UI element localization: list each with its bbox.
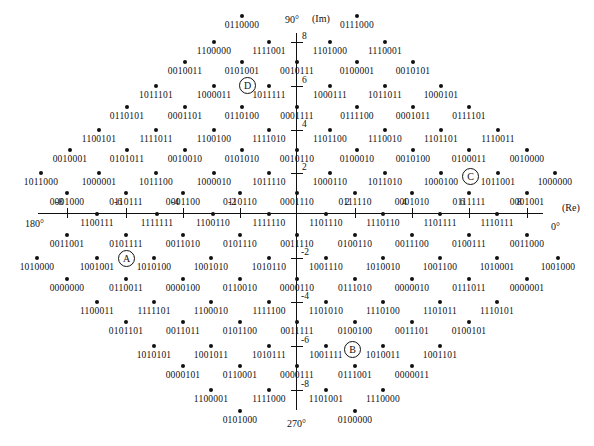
point-dot-icon bbox=[381, 344, 385, 348]
y-tick bbox=[291, 302, 303, 303]
point-dot-icon bbox=[240, 105, 244, 109]
point-dot-icon bbox=[411, 148, 415, 152]
point-code-label: 0010001 bbox=[53, 154, 88, 164]
point-code-label: 1101111 bbox=[423, 218, 456, 228]
point-code-label: 1010010 bbox=[366, 262, 401, 272]
point-code-label: 0010000 bbox=[510, 154, 545, 164]
point-code-label: 0100100 bbox=[338, 326, 373, 336]
point-code-label: 1001101 bbox=[423, 350, 457, 360]
point-code-label: 0101100 bbox=[223, 326, 257, 336]
point-dot-icon bbox=[353, 409, 357, 413]
point-dot-icon bbox=[183, 60, 187, 64]
angle-0-label: 0° bbox=[551, 221, 560, 232]
point-code-label: 0010101 bbox=[396, 66, 431, 76]
point-code-label: 0110011 bbox=[109, 283, 143, 293]
y-tick bbox=[291, 130, 303, 131]
point-dot-icon bbox=[238, 277, 242, 281]
point-dot-icon bbox=[95, 212, 99, 216]
point-dot-icon bbox=[328, 171, 332, 175]
y-tick-label: -8 bbox=[301, 379, 309, 389]
point-code-label: 1011011 bbox=[368, 90, 402, 100]
point-dot-icon bbox=[495, 212, 499, 216]
point-dot-icon bbox=[295, 60, 299, 64]
point-dot-icon bbox=[553, 171, 557, 175]
point-dot-icon bbox=[152, 344, 156, 348]
point-dot-icon bbox=[410, 191, 414, 195]
point-code-label: 0110010 bbox=[223, 283, 257, 293]
point-dot-icon bbox=[328, 84, 332, 88]
point-dot-icon bbox=[324, 388, 328, 392]
point-dot-icon bbox=[124, 191, 128, 195]
point-dot-icon bbox=[439, 171, 443, 175]
point-dot-icon bbox=[324, 300, 328, 304]
point-code-label: 0110000 bbox=[225, 20, 259, 30]
point-dot-icon bbox=[295, 320, 299, 324]
point-dot-icon bbox=[238, 320, 242, 324]
point-dot-icon bbox=[355, 60, 359, 64]
x-tick bbox=[469, 208, 470, 218]
point-dot-icon bbox=[411, 60, 415, 64]
point-code-label: 0000010 bbox=[395, 283, 430, 293]
x-tick bbox=[183, 208, 184, 218]
point-code-label: 0111001 bbox=[338, 370, 372, 380]
point-code-label: 1110111 bbox=[480, 218, 513, 228]
y-tick-label: 6 bbox=[302, 75, 307, 85]
point-code-label: 1011110 bbox=[252, 177, 286, 187]
point-dot-icon bbox=[238, 191, 242, 195]
point-dot-icon bbox=[155, 212, 159, 216]
point-code-label: 0100011 bbox=[452, 154, 486, 164]
point-dot-icon bbox=[267, 300, 271, 304]
y-tick bbox=[291, 173, 303, 174]
point-code-label: 1111101 bbox=[137, 306, 170, 316]
point-dot-icon bbox=[328, 40, 332, 44]
point-dot-icon bbox=[496, 171, 500, 175]
point-dot-icon bbox=[381, 256, 385, 260]
point-dot-icon bbox=[209, 388, 213, 392]
point-code-label: 0000110 bbox=[280, 283, 314, 293]
point-dot-icon bbox=[181, 320, 185, 324]
point-code-label: 1111010 bbox=[252, 134, 286, 144]
point-code-label: 0001011 bbox=[396, 111, 430, 121]
point-code-label: 0010110 bbox=[280, 154, 314, 164]
angle-180-label: 180° bbox=[25, 218, 44, 229]
point-dot-icon bbox=[438, 300, 442, 304]
point-dot-icon bbox=[212, 40, 216, 44]
point-code-label: 0101000 bbox=[223, 415, 258, 425]
point-dot-icon bbox=[183, 148, 187, 152]
point-dot-icon bbox=[410, 233, 414, 237]
point-code-label: 0001000 bbox=[50, 197, 85, 207]
point-dot-icon bbox=[439, 128, 443, 132]
point-code-label: 1000010 bbox=[197, 177, 232, 187]
point-code-label: 1100110 bbox=[196, 218, 230, 228]
point-dot-icon bbox=[267, 388, 271, 392]
point-dot-icon bbox=[124, 233, 128, 237]
region-marker-b: B bbox=[344, 341, 361, 358]
point-code-label: 0010011 bbox=[168, 66, 202, 76]
point-code-label: 1100001 bbox=[194, 394, 228, 404]
point-code-label: 1010100 bbox=[137, 262, 172, 272]
point-dot-icon bbox=[495, 300, 499, 304]
point-dot-icon bbox=[383, 128, 387, 132]
point-dot-icon bbox=[267, 40, 271, 44]
point-code-label: 0011100 bbox=[395, 239, 429, 249]
point-dot-icon bbox=[97, 171, 101, 175]
point-dot-icon bbox=[496, 128, 500, 132]
point-dot-icon bbox=[154, 128, 158, 132]
angle-270-label: 270° bbox=[287, 418, 306, 429]
point-code-label: 1111110 bbox=[253, 218, 286, 228]
point-dot-icon bbox=[267, 171, 271, 175]
point-code-label: 1100100 bbox=[197, 134, 231, 144]
point-code-label: 1110000 bbox=[366, 394, 400, 404]
point-dot-icon bbox=[295, 105, 299, 109]
point-code-label: 1001011 bbox=[194, 350, 228, 360]
y-tick bbox=[291, 42, 303, 43]
point-dot-icon bbox=[152, 300, 156, 304]
real-axis bbox=[38, 213, 543, 214]
point-code-label: 0011110 bbox=[280, 239, 314, 249]
point-code-label: 0100110 bbox=[338, 239, 372, 249]
point-dot-icon bbox=[381, 212, 385, 216]
point-code-label: 0100000 bbox=[338, 415, 373, 425]
point-code-label: 1100111 bbox=[80, 218, 114, 228]
point-code-label: 0110101 bbox=[110, 111, 144, 121]
point-code-label: 1111111 bbox=[141, 218, 174, 228]
